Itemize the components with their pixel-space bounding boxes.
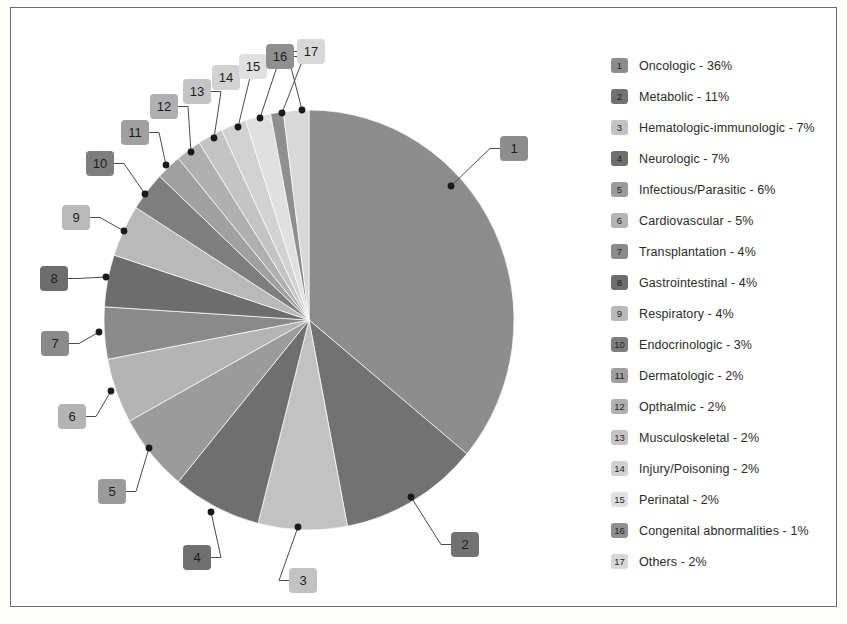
legend-row[interactable]: 14Injury/Poisoning - 2% [611,453,847,484]
legend-swatch-index: 12 [614,401,625,412]
pie-callout-label: 17 [304,44,318,59]
legend-swatch-index: 16 [614,525,625,536]
callout-leader-line [114,164,145,195]
callout-leader-line [86,391,111,417]
callout-anchor-dot [211,135,218,142]
legend-swatch: 15 [611,492,628,507]
legend-swatch-index: 4 [617,153,622,164]
pie-callout-box[interactable]: 13 [183,79,211,104]
callout-leader-line [90,218,124,232]
legend-swatch: 17 [611,554,628,569]
legend-swatch: 16 [611,523,628,538]
legend-label: Endocrinologic - 3% [639,338,752,352]
legend-row[interactable]: 15Perinatal - 2% [611,484,847,515]
callout-anchor-dot [163,162,170,169]
legend-label: Dermatologic - 2% [639,369,744,383]
legend-row[interactable]: 13Musculoskeletal - 2% [611,422,847,453]
figure-root: 1234567891011121314151617 1Oncologic - 3… [0,0,847,624]
pie-callout-box[interactable]: 1 [500,136,528,161]
legend-label: Respiratory - 4% [639,307,734,321]
callout-anchor-dot [257,115,264,122]
callout-anchor-dot [408,494,415,501]
pie-callout-box[interactable]: 8 [40,266,68,291]
legend-swatch: 2 [611,89,628,104]
pie-callout-box[interactable]: 16 [266,44,294,69]
legend-swatch-index: 7 [617,246,622,257]
legend-row[interactable]: 7Transplantation - 4% [611,236,847,267]
legend-row[interactable]: 8Gastrointestinal - 4% [611,267,847,298]
pie-callout-box[interactable]: 17 [297,39,325,64]
figure-frame: 1234567891011121314151617 1Oncologic - 3… [10,7,837,607]
legend-swatch-index: 2 [617,91,622,102]
pie-callout-label: 14 [219,70,233,85]
legend-swatch: 9 [611,306,628,321]
legend-row[interactable]: 9Respiratory - 4% [611,298,847,329]
legend-row[interactable]: 2Metabolic - 11% [611,81,847,112]
callout-anchor-dot [142,191,149,198]
pie-callout-label: 15 [246,59,260,74]
pie-callout-box[interactable]: 6 [58,404,86,429]
pie-callout-box[interactable]: 14 [212,65,240,90]
callout-leader-line [69,332,99,344]
legend-label: Infectious/Parasitic - 6% [639,183,776,197]
legend-label: Cardiovascular - 5% [639,214,753,228]
callout-anchor-dot [208,509,215,516]
callout-anchor-dot [121,228,128,235]
pie-callout-box[interactable]: 10 [86,151,114,176]
legend-row[interactable]: 17Others - 2% [611,546,847,577]
pie-callout-label: 1 [510,141,517,156]
legend-row[interactable]: 6Cardiovascular - 5% [611,205,847,236]
legend-row[interactable]: 16Congenital abnormalities - 1% [611,515,847,546]
legend-label: Transplantation - 4% [639,245,756,259]
legend-label: Gastrointestinal - 4% [639,276,757,290]
callout-anchor-dot [295,524,302,531]
pie-callout-label: 5 [108,484,115,499]
pie-callout-box[interactable]: 9 [62,205,90,230]
legend-swatch: 7 [611,244,628,259]
legend-swatch-index: 17 [614,556,625,567]
legend-swatch-index: 1 [617,60,622,71]
legend-swatch: 13 [611,430,628,445]
legend: 1Oncologic - 36%2Metabolic - 11%3Hematol… [611,50,847,577]
legend-row[interactable]: 12Opthalmic - 2% [611,391,847,422]
legend-swatch-index: 5 [617,184,622,195]
legend-row[interactable]: 10Endocrinologic - 3% [611,329,847,360]
pie-callout-box[interactable]: 11 [121,120,149,145]
pie-chart-area: 1234567891011121314151617 [11,8,611,608]
legend-swatch-index: 15 [614,494,625,505]
pie-callout-label: 10 [93,156,107,171]
callout-anchor-dot [448,183,455,190]
callout-leader-line [149,133,166,166]
legend-swatch: 12 [611,399,628,414]
pie-callout-label: 3 [299,573,306,588]
pie-callout-box[interactable]: 7 [41,331,69,356]
pie-callout-label: 8 [50,271,57,286]
legend-row[interactable]: 4Neurologic - 7% [611,143,847,174]
legend-swatch: 8 [611,275,628,290]
legend-swatch-index: 14 [614,463,625,474]
legend-label: Others - 2% [639,555,707,569]
pie-callout-label: 12 [157,99,171,114]
legend-swatch-index: 8 [617,277,622,288]
pie-callout-box[interactable]: 3 [289,568,317,593]
callout-anchor-dot [146,445,153,452]
pie-slices-group [104,110,514,530]
legend-label: Opthalmic - 2% [639,400,726,414]
legend-row[interactable]: 11Dermatologic - 2% [611,360,847,391]
pie-callout-label: 9 [72,210,79,225]
callout-anchor-dot [103,274,110,281]
pie-callout-box[interactable]: 5 [98,479,126,504]
pie-callout-box[interactable]: 15 [239,54,267,79]
legend-row[interactable]: 5Infectious/Parasitic - 6% [611,174,847,205]
legend-swatch: 3 [611,120,628,135]
pie-callout-box[interactable]: 4 [183,545,211,570]
legend-swatch-index: 13 [614,432,625,443]
legend-label: Injury/Poisoning - 2% [639,462,759,476]
legend-row[interactable]: 3Hematologic-immunologic - 7% [611,112,847,143]
pie-chart-svg [11,8,611,608]
callout-leader-line [411,497,451,545]
legend-row[interactable]: 1Oncologic - 36% [611,50,847,81]
pie-callout-box[interactable]: 2 [451,532,479,557]
legend-swatch-index: 11 [615,370,625,381]
pie-callout-box[interactable]: 12 [150,94,178,119]
